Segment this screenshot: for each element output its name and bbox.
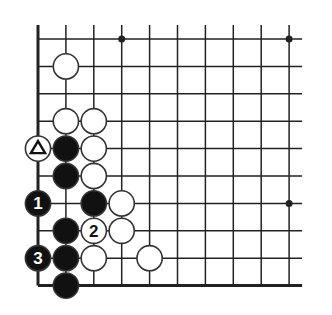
black-stone-icon — [53, 163, 78, 188]
black-stone: 1 — [25, 191, 50, 216]
white-stone-icon — [81, 136, 106, 161]
white-stone-icon — [109, 218, 134, 243]
black-stone-icon — [53, 136, 78, 161]
white-stone — [81, 246, 106, 271]
black-stone — [53, 136, 78, 161]
white-stone-icon — [81, 163, 106, 188]
white-stone-icon — [109, 191, 134, 216]
white-stone: 2 — [81, 218, 106, 243]
black-stone — [53, 246, 78, 271]
white-stone-icon — [53, 54, 78, 79]
white-stone — [109, 218, 134, 243]
move-number-label: 2 — [89, 222, 98, 241]
white-stone — [81, 109, 106, 134]
go-board-diagram: 123 — [0, 0, 332, 315]
black-stone — [53, 218, 78, 243]
black-stone-icon — [53, 246, 78, 271]
black-stone-icon — [81, 191, 106, 216]
white-stone — [53, 54, 78, 79]
white-stone — [81, 163, 106, 188]
white-stone — [81, 136, 106, 161]
star-point-icon — [118, 36, 125, 43]
move-number-label: 1 — [33, 194, 42, 213]
black-stone-icon — [53, 273, 78, 298]
white-stone — [25, 136, 50, 161]
white-stone — [109, 191, 134, 216]
black-stone — [81, 191, 106, 216]
move-number-label: 3 — [33, 249, 42, 268]
black-stone-icon — [53, 218, 78, 243]
black-stone — [53, 273, 78, 298]
star-point-icon — [286, 36, 293, 43]
black-stone — [53, 163, 78, 188]
white-stone-icon — [137, 246, 162, 271]
white-stone-icon — [81, 109, 106, 134]
star-point-icon — [286, 200, 293, 207]
white-stone-icon — [81, 246, 106, 271]
white-stone — [137, 246, 162, 271]
white-stone-icon — [53, 109, 78, 134]
black-stone: 3 — [25, 246, 50, 271]
white-stone — [53, 109, 78, 134]
